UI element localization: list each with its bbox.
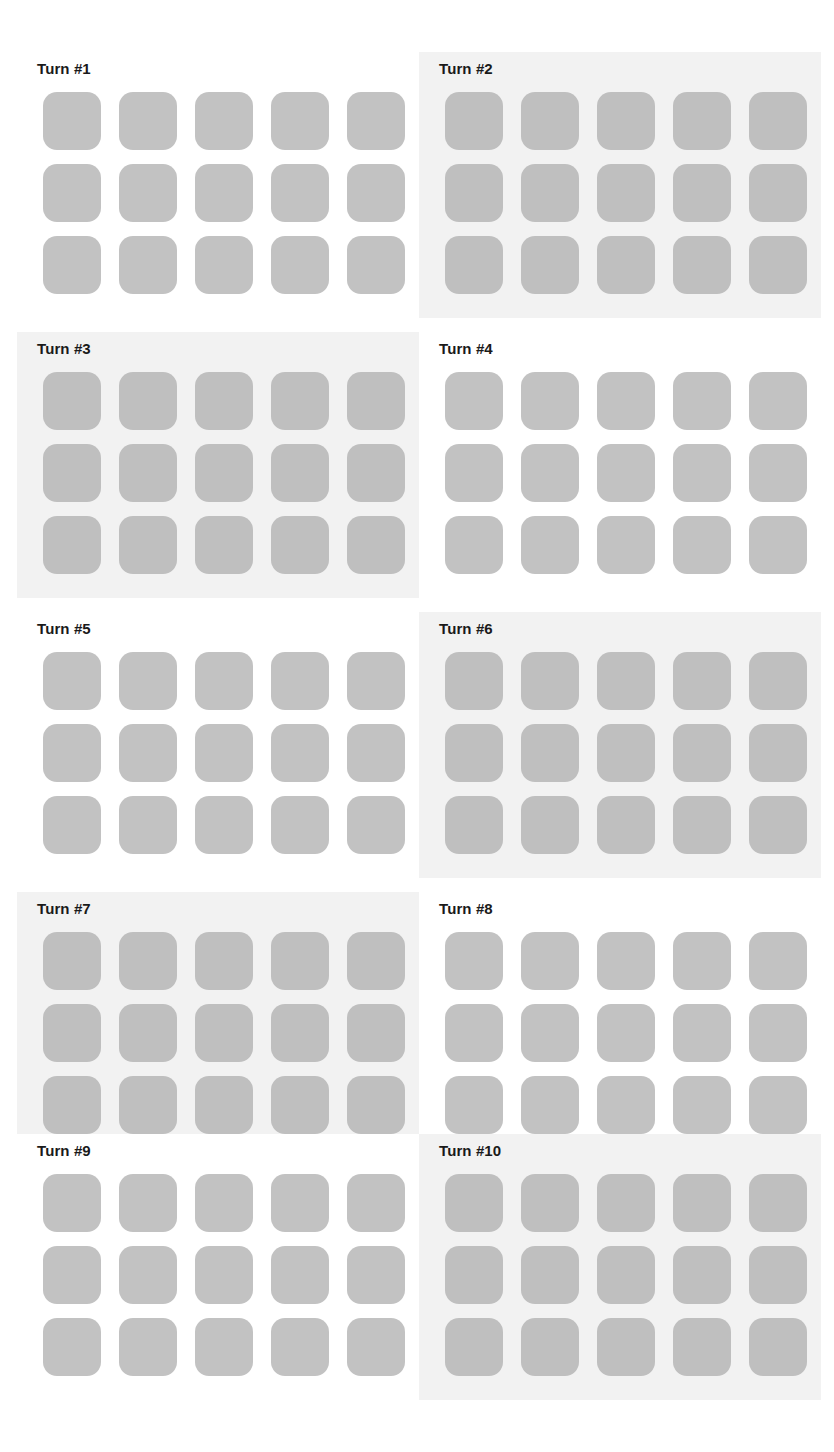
tile-r1-c5[interactable] [347, 372, 405, 430]
tile-r3-c4[interactable] [271, 516, 329, 574]
tile-r1-c4[interactable] [271, 652, 329, 710]
tile-r2-c2[interactable] [521, 724, 579, 782]
tile-r3-c3[interactable] [597, 1318, 655, 1376]
tile-r2-c3[interactable] [597, 724, 655, 782]
tile-r3-c3[interactable] [195, 516, 253, 574]
tile-r3-c5[interactable] [749, 236, 807, 294]
tile-r2-c1[interactable] [445, 164, 503, 222]
tile-r1-c4[interactable] [271, 932, 329, 990]
tile-r2-c2[interactable] [119, 1246, 177, 1304]
tile-r1-c2[interactable] [119, 372, 177, 430]
tile-r1-c1[interactable] [445, 652, 503, 710]
tile-r2-c3[interactable] [597, 1004, 655, 1062]
tile-r1-c5[interactable] [347, 1174, 405, 1232]
tile-r1-c3[interactable] [597, 1174, 655, 1232]
tile-r2-c3[interactable] [195, 444, 253, 502]
tile-r3-c5[interactable] [749, 516, 807, 574]
tile-r1-c2[interactable] [521, 372, 579, 430]
tile-r2-c3[interactable] [195, 724, 253, 782]
tile-r2-c3[interactable] [597, 1246, 655, 1304]
tile-r3-c4[interactable] [673, 1076, 731, 1134]
tile-r2-c2[interactable] [521, 1246, 579, 1304]
tile-r2-c1[interactable] [43, 724, 101, 782]
tile-r1-c3[interactable] [195, 652, 253, 710]
tile-r1-c5[interactable] [749, 92, 807, 150]
tile-r3-c5[interactable] [749, 1076, 807, 1134]
tile-r2-c3[interactable] [195, 164, 253, 222]
tile-r3-c1[interactable] [445, 1076, 503, 1134]
tile-r1-c3[interactable] [597, 932, 655, 990]
tile-r2-c5[interactable] [749, 724, 807, 782]
tile-r3-c4[interactable] [673, 236, 731, 294]
tile-r3-c4[interactable] [673, 516, 731, 574]
tile-r2-c4[interactable] [271, 724, 329, 782]
tile-r1-c1[interactable] [445, 92, 503, 150]
tile-r3-c5[interactable] [347, 1318, 405, 1376]
tile-r2-c2[interactable] [119, 1004, 177, 1062]
tile-r1-c4[interactable] [673, 652, 731, 710]
tile-r3-c2[interactable] [119, 516, 177, 574]
tile-r1-c4[interactable] [271, 92, 329, 150]
tile-r3-c2[interactable] [521, 1318, 579, 1376]
tile-r1-c5[interactable] [749, 1174, 807, 1232]
tile-r2-c5[interactable] [749, 1004, 807, 1062]
tile-r1-c1[interactable] [43, 652, 101, 710]
tile-r1-c4[interactable] [673, 1174, 731, 1232]
tile-r3-c1[interactable] [43, 796, 101, 854]
tile-r2-c2[interactable] [521, 444, 579, 502]
tile-r1-c1[interactable] [43, 92, 101, 150]
tile-r2-c1[interactable] [43, 444, 101, 502]
tile-r1-c3[interactable] [195, 1174, 253, 1232]
tile-r1-c5[interactable] [347, 652, 405, 710]
tile-r2-c4[interactable] [673, 1004, 731, 1062]
tile-r2-c2[interactable] [521, 1004, 579, 1062]
tile-r2-c5[interactable] [749, 164, 807, 222]
tile-r3-c4[interactable] [673, 1318, 731, 1376]
tile-r2-c4[interactable] [271, 444, 329, 502]
tile-r1-c1[interactable] [43, 372, 101, 430]
tile-r2-c1[interactable] [445, 724, 503, 782]
tile-r2-c4[interactable] [271, 1004, 329, 1062]
tile-r1-c2[interactable] [119, 932, 177, 990]
tile-r2-c3[interactable] [597, 164, 655, 222]
tile-r2-c5[interactable] [347, 1004, 405, 1062]
tile-r3-c3[interactable] [195, 236, 253, 294]
tile-r1-c3[interactable] [597, 372, 655, 430]
tile-r2-c5[interactable] [347, 724, 405, 782]
tile-r3-c3[interactable] [195, 1076, 253, 1134]
tile-r3-c1[interactable] [43, 516, 101, 574]
tile-r3-c5[interactable] [347, 516, 405, 574]
tile-r1-c1[interactable] [445, 372, 503, 430]
tile-r1-c3[interactable] [195, 932, 253, 990]
tile-r2-c3[interactable] [195, 1004, 253, 1062]
tile-r1-c3[interactable] [597, 92, 655, 150]
tile-r2-c2[interactable] [119, 724, 177, 782]
tile-r1-c5[interactable] [347, 932, 405, 990]
tile-r1-c1[interactable] [43, 1174, 101, 1232]
tile-r1-c2[interactable] [521, 92, 579, 150]
tile-r2-c4[interactable] [673, 1246, 731, 1304]
tile-r1-c4[interactable] [673, 92, 731, 150]
tile-r2-c4[interactable] [673, 444, 731, 502]
tile-r2-c1[interactable] [445, 1246, 503, 1304]
tile-r1-c2[interactable] [119, 1174, 177, 1232]
tile-r2-c5[interactable] [347, 444, 405, 502]
tile-r3-c2[interactable] [521, 516, 579, 574]
tile-r2-c5[interactable] [749, 444, 807, 502]
tile-r2-c4[interactable] [673, 164, 731, 222]
tile-r3-c3[interactable] [597, 1076, 655, 1134]
tile-r2-c1[interactable] [43, 164, 101, 222]
tile-r3-c5[interactable] [749, 796, 807, 854]
tile-r3-c2[interactable] [119, 796, 177, 854]
tile-r3-c3[interactable] [195, 796, 253, 854]
tile-r1-c4[interactable] [673, 372, 731, 430]
tile-r3-c3[interactable] [597, 796, 655, 854]
tile-r3-c1[interactable] [445, 516, 503, 574]
tile-r3-c4[interactable] [271, 1318, 329, 1376]
tile-r1-c4[interactable] [271, 372, 329, 430]
tile-r1-c1[interactable] [445, 1174, 503, 1232]
tile-r3-c4[interactable] [271, 1076, 329, 1134]
tile-r3-c5[interactable] [749, 1318, 807, 1376]
tile-r2-c3[interactable] [195, 1246, 253, 1304]
tile-r3-c1[interactable] [43, 1318, 101, 1376]
